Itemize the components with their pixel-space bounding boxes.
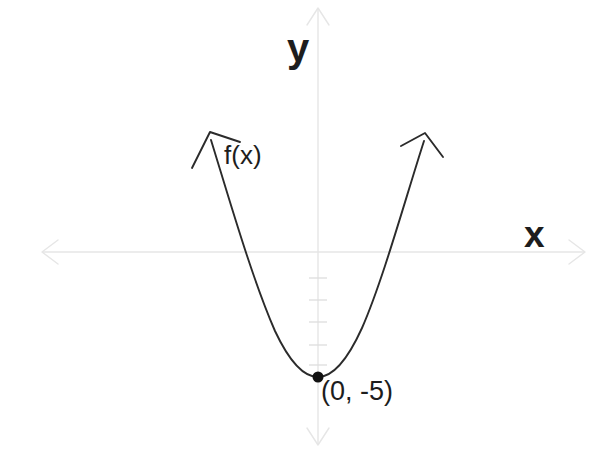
graph-figure: y x f(x) (0, -5) <box>0 0 605 458</box>
vertex-coordinate-label: (0, -5) <box>321 378 393 405</box>
x-axis-label: x <box>524 216 545 253</box>
x-axis-group <box>42 240 585 264</box>
y-axis-label: y <box>287 28 309 68</box>
function-label: f(x) <box>224 142 262 168</box>
